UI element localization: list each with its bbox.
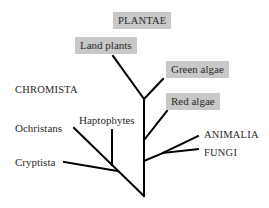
label-fungi: FUNGI — [204, 146, 237, 159]
animalia-fungi-stem — [144, 153, 163, 161]
label-ochristans: Ochristans — [15, 122, 62, 135]
label-land-plants: Land plants — [75, 37, 137, 54]
label-red-algae: Red algae — [166, 93, 220, 110]
label-plantae: PLANTAE — [113, 12, 171, 29]
green-algae-branch — [144, 79, 163, 99]
label-animalia: ANIMALIA — [204, 128, 259, 141]
label-green-algae: Green algae — [166, 61, 229, 78]
chromista-main-branch — [74, 128, 144, 196]
label-haptophytes: Haptophytes — [79, 114, 135, 127]
label-chromista: CHROMISTA — [15, 83, 78, 96]
land-plants-branch — [113, 56, 144, 99]
tree-diagram — [0, 0, 269, 208]
red-algae-branch — [144, 111, 167, 140]
label-cryptista: Cryptista — [15, 156, 55, 169]
